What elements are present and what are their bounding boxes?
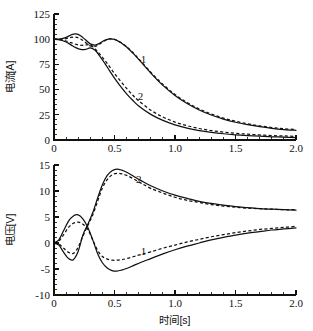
curve-label-2: 2 — [138, 90, 144, 102]
x-tick-label: 0.5 — [108, 297, 122, 309]
x-tick-label: 0 — [51, 142, 57, 154]
voltage-plot-svg: -10-505101500.51.01.52.021电压[V]时间[s] — [0, 158, 313, 331]
y-tick-label: 75 — [39, 58, 51, 70]
x-tick-label: 1.0 — [168, 297, 182, 309]
data-curve-2-alt — [54, 39, 296, 136]
x-tick-label: 0 — [51, 297, 57, 309]
x-tick-label: 1.0 — [168, 142, 182, 154]
curve-label-1: 1 — [141, 245, 147, 257]
x-tick-label: 1.5 — [229, 297, 243, 309]
curve-label-1: 1 — [141, 53, 147, 65]
data-curve-2 — [54, 169, 296, 260]
y-axis-title: 电流[A] — [4, 61, 16, 94]
data-curve-2 — [54, 39, 296, 137]
data-curve-1-alt — [54, 37, 296, 129]
y-tick-label: 10 — [39, 185, 51, 197]
axis-spines — [54, 14, 296, 140]
data-curve-1 — [54, 215, 296, 271]
x-tick-label: 2.0 — [289, 142, 303, 154]
y-axis-title: 电压[V] — [4, 214, 16, 247]
data-curve-1-alt — [54, 222, 296, 260]
y-tick-label: 0 — [45, 237, 51, 249]
chart-panel-current: 025507510012500.51.01.52.012电流[A] — [0, 0, 313, 158]
y-tick-label: -10 — [35, 289, 50, 301]
data-curve-2-alt — [54, 173, 296, 253]
x-tick-label: 0.5 — [108, 142, 122, 154]
y-tick-label: 100 — [34, 33, 51, 45]
x-axis-title: 时间[s] — [159, 314, 190, 326]
chart-panel-voltage: -10-505101500.51.01.52.021电压[V]时间[s] — [0, 158, 313, 331]
y-tick-label: 5 — [45, 211, 51, 223]
y-tick-label: -5 — [41, 263, 51, 275]
y-tick-label: 15 — [39, 159, 51, 171]
current-plot-svg: 025507510012500.51.01.52.012电流[A] — [0, 0, 313, 158]
y-tick-label: 125 — [34, 8, 51, 20]
x-tick-label: 2.0 — [289, 297, 303, 309]
y-tick-label: 0 — [45, 134, 51, 146]
curve-label-2: 2 — [136, 173, 142, 185]
y-tick-label: 50 — [39, 83, 51, 95]
figure-root: 025507510012500.51.01.52.012电流[A] -10-50… — [0, 0, 313, 331]
x-tick-label: 1.5 — [229, 142, 243, 154]
y-tick-label: 25 — [39, 109, 51, 121]
